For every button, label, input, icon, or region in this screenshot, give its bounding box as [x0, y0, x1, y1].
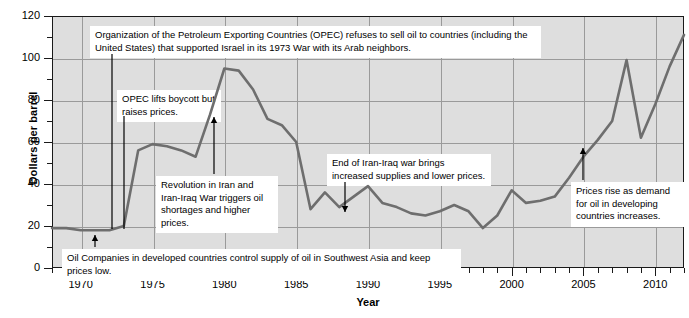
x-axis-tick-minor	[483, 268, 484, 273]
gridline-horizontal	[53, 59, 683, 60]
y-axis-tick-major	[44, 142, 52, 143]
x-axis-tick-minor	[641, 268, 642, 273]
y-axis-tick-minor	[47, 37, 52, 38]
x-axis-tick-minor	[598, 268, 599, 273]
gridline-vertical	[656, 17, 657, 267]
y-axis-tick-minor	[47, 163, 52, 164]
y-axis-tick-minor	[47, 247, 52, 248]
x-axis-tick-minor	[52, 268, 53, 273]
x-axis-tick-major	[583, 268, 584, 276]
y-axis-tick-major	[44, 16, 52, 17]
y-axis-tick-label: 80	[0, 93, 40, 105]
x-axis-tick-minor	[555, 268, 556, 273]
x-axis-tick-minor	[670, 268, 671, 273]
x-axis-tick-minor	[469, 268, 470, 273]
y-axis-tick-major	[44, 100, 52, 101]
x-axis-tick-minor	[526, 268, 527, 273]
x-axis-tick-major	[655, 268, 656, 276]
oil-price-chart: Dollars per barrel Year 0204060801001201…	[0, 0, 689, 318]
y-axis-tick-label: 0	[0, 261, 40, 273]
x-axis-tick-label: 2005	[561, 278, 605, 290]
gridline-horizontal	[53, 227, 683, 228]
x-axis-tick-minor	[684, 268, 685, 273]
annotation-iran-revolution: Revolution in Iran and Iran-Iraq War tri…	[156, 176, 278, 233]
annotation-developing-demand: Prices rise as demand for oil in develop…	[571, 182, 685, 227]
gridline-vertical	[82, 17, 83, 267]
annotation-iran-iraq-war-end: End of Iran-Iraq war brings increased su…	[327, 154, 491, 186]
x-axis-tick-minor	[497, 268, 498, 273]
x-axis-title: Year	[52, 296, 684, 308]
y-axis-tick-label: 100	[0, 51, 40, 63]
y-axis-tick-minor	[47, 79, 52, 80]
x-axis-tick-minor	[612, 268, 613, 273]
annotation-opec-embargo: Organization of the Petroleum Exporting …	[90, 26, 541, 58]
y-axis-tick-major	[44, 226, 52, 227]
y-axis-tick-minor	[47, 121, 52, 122]
y-axis-tick-label: 20	[0, 219, 40, 231]
x-axis-tick-minor	[627, 268, 628, 273]
y-axis-tick-minor	[47, 205, 52, 206]
x-axis-tick-minor	[540, 268, 541, 273]
y-axis-tick-major	[44, 58, 52, 59]
annotation-oil-companies-control: Oil Companies in developed countries con…	[62, 249, 461, 281]
gridline-vertical	[584, 17, 585, 267]
y-axis-tick-label: 60	[0, 135, 40, 147]
y-axis-tick-label: 120	[0, 9, 40, 21]
x-axis-tick-major	[512, 268, 513, 276]
x-axis-tick-label: 2000	[490, 278, 534, 290]
x-axis-tick-minor	[569, 268, 570, 273]
annotation-opec-lifts-boycott: OPEC lifts boycott but raises prices.	[117, 90, 221, 122]
y-axis-tick-label: 40	[0, 177, 40, 189]
y-axis-tick-major	[44, 184, 52, 185]
y-axis-tick-major	[44, 268, 52, 269]
x-axis-tick-label: 2010	[633, 278, 677, 290]
gridline-horizontal	[53, 143, 683, 144]
